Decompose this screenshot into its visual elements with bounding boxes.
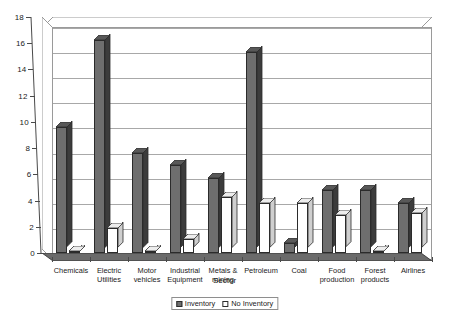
bar-side-face <box>67 121 73 253</box>
bar-top-face <box>56 122 73 128</box>
bar-face <box>183 239 194 253</box>
bar-group <box>52 27 90 253</box>
bar-group <box>166 27 204 253</box>
bar-top-face <box>246 47 263 53</box>
bar-inv <box>170 165 181 253</box>
bar-top-face <box>297 198 314 204</box>
bar-face <box>398 203 409 253</box>
chart-legend: Inventory No Inventory <box>171 297 278 310</box>
bar-face <box>284 243 295 253</box>
bar-top-face <box>208 173 225 179</box>
bar-face <box>411 213 422 253</box>
bar-side-face <box>308 197 314 253</box>
bar-noinv <box>221 197 232 254</box>
x-axis-label: Airlines <box>388 266 438 275</box>
bar-face <box>132 153 143 253</box>
bar-inv <box>94 40 105 253</box>
y-axis-line <box>0 0 42 260</box>
bar-face <box>94 40 105 253</box>
bar-face <box>56 127 67 253</box>
bar-side-face <box>270 197 276 253</box>
bar-inv <box>360 190 371 253</box>
bar-top-face <box>360 185 377 191</box>
bar-group <box>242 27 280 253</box>
bar-face <box>208 178 219 253</box>
bar-top-face <box>398 198 415 204</box>
bar-group <box>394 27 432 253</box>
x-axis-tick-mark <box>52 257 53 262</box>
bar-side-face <box>371 184 377 253</box>
legend-label-no-inventory: No Inventory <box>231 299 273 308</box>
bar-noinv <box>297 203 308 253</box>
bar-top-face <box>107 223 124 229</box>
legend-swatch-inventory <box>176 301 182 307</box>
bar-inv <box>398 203 409 253</box>
bar-inv <box>132 153 143 253</box>
bar-top-face <box>259 198 276 204</box>
x-axis-tick-mark <box>166 257 167 262</box>
x-axis-tick-mark <box>128 257 129 262</box>
bar-noinv <box>259 203 270 253</box>
x-axis-tick-mark <box>394 257 395 262</box>
x-axis-label-line: Airlines <box>388 266 438 275</box>
bar-top-face <box>322 185 339 191</box>
bar-top-face <box>373 246 390 252</box>
bar-face <box>246 52 257 253</box>
x-axis-tick-mark <box>432 257 433 262</box>
bar-top-face <box>411 208 428 214</box>
bar-face <box>322 190 333 253</box>
bars-layer <box>52 27 432 253</box>
bar-group <box>128 27 166 253</box>
bar-top-face <box>69 246 86 252</box>
bar-group <box>318 27 356 253</box>
bar-top-face <box>183 234 200 240</box>
bar-inv <box>246 52 257 253</box>
bar-top-face <box>170 160 187 166</box>
x-axis-tick-mark <box>204 257 205 262</box>
bar-face <box>335 215 346 253</box>
bar-face <box>170 165 181 253</box>
bar-noinv <box>183 239 194 253</box>
bar-top-face <box>221 192 238 198</box>
bar-inv <box>208 178 219 253</box>
bar-group <box>90 27 128 253</box>
y-axis: 024681012141618 <box>0 0 42 260</box>
x-axis-tick-mark <box>242 257 243 262</box>
bar-group <box>204 27 242 253</box>
bar-noinv <box>335 215 346 253</box>
bar-noinv <box>411 213 422 253</box>
plot-floor <box>42 253 432 261</box>
bar-side-face <box>143 147 149 253</box>
x-axis-tick-mark <box>280 257 281 262</box>
bar-top-face <box>335 210 352 216</box>
bar-inv <box>284 243 295 253</box>
x-axis-tick-mark <box>356 257 357 262</box>
x-axis-tick-mark <box>90 257 91 262</box>
bar-face <box>259 203 270 253</box>
bar-group <box>356 27 394 253</box>
bar-inv <box>56 127 67 253</box>
bar-top-face <box>132 148 149 154</box>
bar-face <box>360 190 371 253</box>
bar-face <box>297 203 308 253</box>
bar-side-face <box>232 191 238 254</box>
bar-group <box>280 27 318 253</box>
bar-face <box>107 228 118 253</box>
legend-swatch-no-inventory <box>222 301 228 307</box>
legend-label-inventory: Inventory <box>185 299 215 308</box>
bar-side-face <box>105 34 111 253</box>
bar-top-face <box>145 246 162 252</box>
x-axis-tick-mark <box>318 257 319 262</box>
bar-noinv <box>107 228 118 253</box>
legend-item-no-inventory: No Inventory <box>222 299 273 308</box>
bar-inv <box>322 190 333 253</box>
bar-face <box>221 197 232 254</box>
bar-chart: 024681012141618 ChemicalsElectricUtiliti… <box>0 0 449 321</box>
bar-top-face <box>94 35 111 41</box>
legend-item-inventory: Inventory <box>176 299 215 308</box>
x-axis-title: Sector <box>0 276 449 285</box>
